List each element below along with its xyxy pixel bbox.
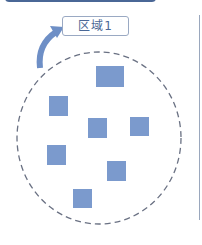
- item-square: [107, 161, 126, 181]
- item-square: [96, 66, 124, 87]
- item-square: [47, 145, 66, 165]
- item-square: [73, 189, 92, 208]
- item-square: [130, 117, 149, 136]
- item-square: [49, 96, 68, 116]
- region-label: 区域1: [62, 16, 129, 36]
- item-square: [88, 118, 107, 138]
